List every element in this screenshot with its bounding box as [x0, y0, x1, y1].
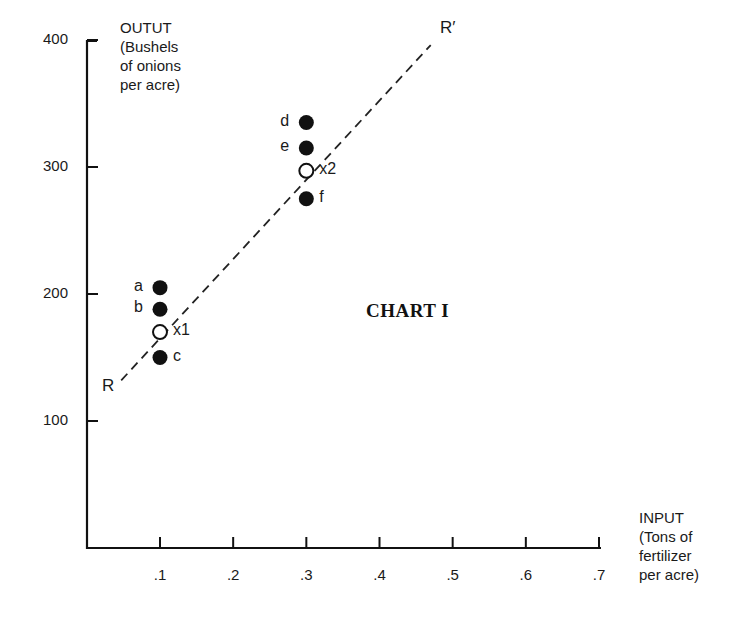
- x-axis-label-line: per acre): [639, 565, 699, 584]
- y-axis-label-line: of onions: [120, 56, 181, 75]
- point-label: f: [319, 188, 323, 206]
- observed-point-marker: [299, 191, 314, 206]
- x-axis-label: INPUT (Tons of fertilizer per acre): [639, 508, 699, 584]
- point-label: x2: [319, 160, 336, 178]
- x-tick-label: .1: [145, 566, 175, 583]
- y-tick-label: 300: [28, 157, 68, 174]
- point-label: a: [134, 277, 143, 295]
- regression-start-label: R: [102, 376, 114, 395]
- point-label: c: [173, 347, 181, 365]
- x-tick-label: .6: [511, 566, 541, 583]
- y-axis-label-line: per acre): [120, 75, 181, 94]
- x-axis-label-line: (Tons of: [639, 527, 699, 546]
- regression-end-label: R′: [440, 18, 455, 37]
- observed-point-marker: [153, 302, 168, 317]
- x-tick-label: .7: [584, 566, 614, 583]
- point-label: b: [134, 298, 143, 316]
- x-tick-label: .4: [365, 566, 395, 583]
- point-label: d: [280, 112, 289, 130]
- observed-point-marker: [299, 140, 314, 155]
- observed-point-marker: [153, 350, 168, 365]
- y-axis-label-line: (Bushels: [120, 37, 181, 56]
- point-label: e: [280, 137, 289, 155]
- x-tick-label: .5: [438, 566, 468, 583]
- point-label: x1: [173, 321, 190, 339]
- y-axis-label: OUTUT (Bushels of onions per acre): [120, 18, 181, 94]
- mean-point-marker: [153, 325, 167, 339]
- y-axis-label-line: OUTUT: [120, 18, 181, 37]
- x-axis-label-line: fertilizer: [639, 546, 699, 565]
- mean-point-marker: [299, 164, 313, 178]
- x-axis-label-line: INPUT: [639, 508, 699, 527]
- x-tick-label: .2: [218, 566, 248, 583]
- y-ticks: [87, 40, 98, 421]
- chart-title: CHART I: [366, 300, 449, 322]
- y-tick-label: 100: [28, 411, 68, 428]
- observed-point-marker: [153, 280, 168, 295]
- chart-root: 100200300400 .1.2.3.4.5.6.7 abcdefx1x2 O…: [0, 0, 746, 621]
- y-tick-label: 200: [28, 284, 68, 301]
- x-tick-label: .3: [291, 566, 321, 583]
- y-tick-label: 400: [28, 30, 68, 47]
- observed-point-marker: [299, 115, 314, 130]
- x-ticks: [160, 537, 599, 548]
